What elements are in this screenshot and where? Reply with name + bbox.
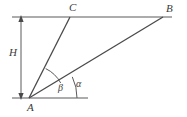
- point-label-B: B: [166, 2, 173, 14]
- angle-label-beta: β: [57, 82, 63, 93]
- point-label-A: A: [26, 101, 34, 113]
- figure-canvas: A B C H β α: [0, 0, 187, 117]
- point-label-C: C: [69, 1, 77, 13]
- height-label-H: H: [8, 46, 18, 58]
- height-dimension-arrow: [18, 15, 23, 100]
- geometry-figure: A B C H β α: [0, 0, 187, 117]
- angle-label-alpha: α: [76, 78, 82, 89]
